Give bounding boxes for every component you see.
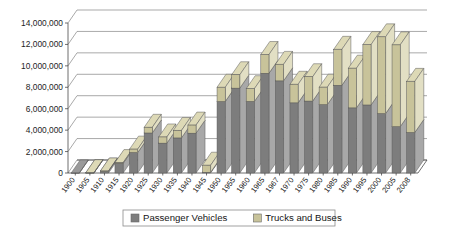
bar-front-face [392,127,400,173]
legend-label-trucks-and-buses[interactable]: Trucks and Buses [265,212,342,223]
bar-front-face [348,68,356,108]
legend-swatch-trucks-and-buses[interactable] [253,214,261,222]
bar-front-face [115,163,123,173]
bar-front-face [275,81,283,173]
bar-front-face [130,149,138,152]
bar-front-face [246,101,254,173]
motor-vehicle-production-chart: 02,000,0004,000,0006,000,0008,000,00010,… [0,0,458,236]
bar-front-face [246,89,254,102]
bar-front-face [173,138,181,173]
bar-front-face [159,137,167,143]
bar-front-face [319,87,327,105]
bar-front-face [290,84,298,103]
bar-front-face [144,127,152,133]
y-axis-tick-label: 6,000,000 [26,104,64,114]
bar-front-face [159,143,167,173]
bar-front-face [319,105,327,173]
bar-front-face [232,75,240,88]
bar-front-face [217,102,225,173]
bar-front-face [130,153,138,173]
bar-front-face [363,105,371,173]
y-axis-tick-label: 8,000,000 [26,82,64,92]
bar-front-face [173,130,181,137]
bar-front-face [188,133,196,173]
y-axis-tick-label: 14,000,000 [21,18,63,28]
y-axis-tick-label: 2,000,000 [26,147,64,157]
bar-front-face [217,87,225,101]
y-axis-tick-label: 12,000,000 [21,39,63,49]
bar-front-face [392,45,400,127]
bar-column [188,112,205,173]
chart-container: 02,000,0004,000,0006,000,0008,000,00010,… [0,0,458,236]
bar-front-face [305,101,313,173]
bar-front-face [261,73,269,173]
bar-segment-trucks-and-buses [407,68,424,132]
bar-front-face [261,55,269,74]
bar-front-face [348,108,356,173]
bar-front-face [377,114,385,173]
bar-front-face [275,64,283,80]
bar-front-face [202,165,210,172]
bar-front-face [290,103,298,173]
bar-column [407,68,424,173]
bar-front-face [334,49,342,85]
chart-legend[interactable]: Passenger VehiclesTrucks and Buses [123,210,342,226]
bar-front-face [363,45,371,105]
bar-front-face [232,88,240,173]
bar-front-face [144,133,152,173]
bar-front-face [305,77,313,101]
y-axis-tick-label: 10,000,000 [21,61,63,71]
bar-front-face [334,85,342,173]
y-axis-tick-label: 4,000,000 [26,125,64,135]
bar-front-face [377,37,385,114]
bar-front-face [115,163,123,164]
bar-front-face [407,81,415,132]
y-axis-tick-label: 0 [58,168,63,178]
bar-front-face [188,125,196,133]
bar-front-face [407,133,415,173]
legend-swatch-passenger-vehicles[interactable] [131,214,139,222]
legend-label-passenger-vehicles[interactable]: Passenger Vehicles [143,212,227,223]
